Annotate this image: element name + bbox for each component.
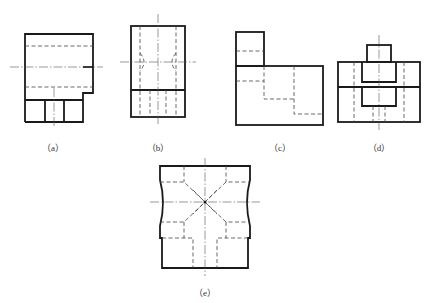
view-b bbox=[120, 14, 196, 124]
label-a: （a） bbox=[42, 141, 64, 154]
label-b: （b） bbox=[147, 141, 170, 154]
view-d bbox=[338, 35, 420, 130]
view-c bbox=[236, 32, 323, 125]
label-c: （c） bbox=[269, 141, 291, 154]
label-d: （d） bbox=[368, 141, 391, 154]
label-e: （e） bbox=[194, 286, 216, 299]
view-e bbox=[150, 158, 260, 276]
view-a bbox=[10, 34, 103, 128]
drawing-canvas bbox=[0, 0, 430, 303]
